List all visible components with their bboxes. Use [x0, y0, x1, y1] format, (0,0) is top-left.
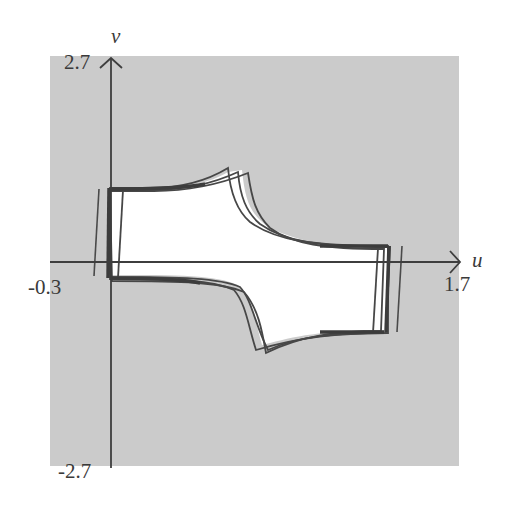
v-max-label: 2.7	[64, 52, 90, 73]
thick-left-edge	[108, 188, 109, 278]
figure: v 2.7 -0.3 u 1.7 -2.7	[0, 0, 509, 516]
u-min-label: -0.3	[28, 277, 61, 298]
u-max-label: 1.7	[444, 274, 470, 295]
u-axis-label: u	[472, 250, 483, 271]
plot-canvas	[0, 0, 509, 516]
v-axis-label: v	[111, 26, 120, 47]
v-min-label: -2.7	[58, 461, 91, 482]
